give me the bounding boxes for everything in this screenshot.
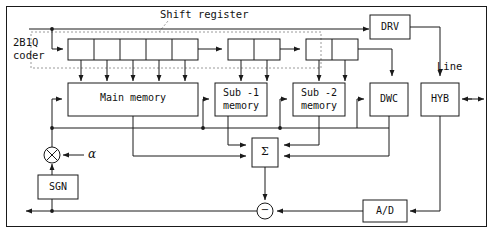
shift-register-dashed-enclosure [31, 21, 321, 68]
sub1-memory-label-line1: Sub -1 [215, 87, 267, 99]
shift-register-cells [68, 39, 358, 81]
sigma-label: Σ [252, 146, 278, 159]
diagram-root: Shift register Line 2B1Q coder Main memo… [0, 0, 493, 233]
coder-label-line1: 2B1Q [13, 36, 38, 48]
block-diagram-canvas [0, 0, 493, 233]
alpha-label: α [88, 148, 96, 162]
ad-label: A/D [363, 205, 407, 217]
shift-register-title: Shift register [160, 8, 249, 20]
minus-sign-label: − [257, 204, 273, 216]
sub2-memory-label-line1: Sub -2 [293, 87, 345, 99]
sgn-label: SGN [38, 181, 78, 193]
coder-label-line2: coder [13, 49, 45, 61]
sub2-memory-label-line2: memory [293, 100, 345, 112]
top-input-bus [29, 27, 369, 49]
wiring-right-section [277, 27, 484, 211]
drv-label: DRV [370, 21, 410, 33]
hyb-label: HYB [421, 93, 459, 105]
line-label: Line [437, 60, 462, 72]
multiplier-node [44, 147, 84, 163]
main-memory-label: Main memory [68, 92, 198, 104]
dwc-label: DWC [370, 93, 408, 105]
sub1-memory-label-line2: memory [215, 100, 267, 112]
